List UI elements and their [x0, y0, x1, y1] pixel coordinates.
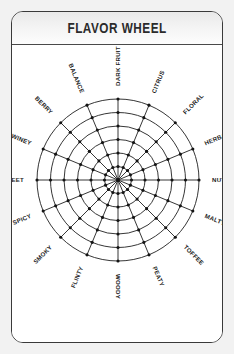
radar-grid-dot [147, 104, 150, 107]
radar-grid-dot [107, 188, 110, 191]
radar-grid-dot [142, 241, 145, 244]
radar-axis-label: MALTY [204, 212, 223, 227]
radar-grid-dot [166, 158, 169, 161]
radar-grid-dot [143, 178, 146, 181]
radar-grid-dot [91, 116, 94, 119]
radar-grid-dot [88, 207, 91, 210]
radar-grid-dot [62, 178, 65, 181]
radar-grid-dot [85, 104, 88, 107]
radar-grid-dot [147, 253, 150, 256]
radar-grid-dot [122, 166, 125, 169]
radar-grid-dot [136, 159, 139, 162]
radar-grid-dot [166, 199, 169, 202]
radar-grid-dot [132, 216, 135, 219]
radar-grid-dot [116, 151, 119, 154]
radar-grid-dot [141, 168, 144, 171]
radar-grid-dot [91, 241, 94, 244]
radar-grid-dot [111, 166, 114, 169]
radar-grid-dot [69, 226, 72, 229]
radar-grid-dot [127, 154, 130, 157]
radar-grid-dot [106, 203, 109, 206]
radar-grid-dot [116, 97, 119, 100]
radar-grid-dot [85, 253, 88, 256]
radar-axis-label: PEATY [152, 265, 167, 287]
radar-grid-dot [104, 173, 107, 176]
radar-grid-dot [170, 178, 173, 181]
radar-grid-dot [106, 154, 109, 157]
radar-grid-dot [179, 153, 182, 156]
radar-grid-dot [104, 184, 107, 187]
radar-grid-dot [184, 178, 187, 181]
radar-grid-dot [116, 219, 119, 222]
radar-grid-dot [126, 169, 129, 172]
radar-chart-svg: DARK FRUITCITRUSFLORALHERBALNUTTYMALTYTO… [12, 46, 223, 343]
radar-grid-dot [191, 147, 194, 150]
radar-grid-dot [59, 236, 62, 239]
radar-grid-dot [111, 191, 114, 194]
radar-axis-label: CITRUS [150, 69, 166, 94]
radar-axis-label: DARK FRUIT [114, 46, 121, 86]
radar-grid-dot [107, 169, 110, 172]
radar-grid-dot [116, 124, 119, 127]
radar-grid-dot [141, 189, 144, 192]
radar-grid-dot [145, 150, 148, 153]
card-header: FLAVOR WHEEL [12, 12, 222, 45]
flavor-wheel-card: FLAVOR WHEEL DARK FRUITCITRUSFLORALHERBA… [11, 11, 223, 343]
radar-grid-dot [59, 121, 62, 124]
radar-axis-label: SMOKY [32, 243, 54, 265]
radar-grid-dot [116, 138, 119, 141]
radar-grid-dot [101, 216, 104, 219]
radar-grid-dot [54, 153, 57, 156]
radar-axis-label: SPICY [12, 212, 32, 226]
radar-grid-dot [154, 163, 157, 166]
radar-grid-dot [155, 217, 158, 220]
radar-grid-dot [174, 121, 177, 124]
radar-grid-dot [130, 178, 133, 181]
radar-grid-dot [69, 131, 72, 134]
radar-grid-dot [136, 198, 139, 201]
radar-grid-dot [129, 173, 132, 176]
radar-axis-label: HERBAL [203, 130, 223, 147]
radar-grid-dot [79, 163, 82, 166]
radar-grid-dot [116, 111, 119, 114]
radar-grid-dot [78, 217, 81, 220]
radar-grid-dot [157, 178, 160, 181]
radar-grid-dot [154, 194, 157, 197]
radar-axis-label: TOFFEE [183, 243, 206, 266]
radar-grid-dot [88, 150, 91, 153]
radar-center-dot [116, 178, 120, 182]
radar-grid-dot [164, 131, 167, 134]
radar-axis-label: BERRY [34, 95, 55, 116]
flavor-wheel-chart: DARK FRUITCITRUSFLORALHERBALNUTTYMALTYTO… [12, 46, 223, 343]
radar-grid-dot [97, 159, 100, 162]
page-title: FLAVOR WHEEL [67, 20, 166, 36]
radar-grid-dot [49, 178, 52, 181]
radar-grid-dot [164, 226, 167, 229]
radar-grid-dot [92, 189, 95, 192]
radar-axis-label: FLORAL [181, 92, 205, 116]
radar-grid-dot [92, 168, 95, 171]
radar-grid-dot [129, 184, 132, 187]
radar-axis-label: WOODY [115, 274, 122, 299]
radar-axis-label: FLINTY [69, 265, 84, 289]
radar-axis-label: SWEET [12, 176, 24, 183]
radar-grid-dot [54, 204, 57, 207]
radar-grid-dot [42, 209, 45, 212]
radar-axis-label: NUTTY [212, 176, 223, 183]
radar-grid-dot [174, 236, 177, 239]
radar-grid-dot [89, 178, 92, 181]
radar-grid-dot [116, 232, 119, 235]
radar-grid-dot [137, 129, 140, 132]
radar-grid-dot [137, 228, 140, 231]
radar-axis-label: WINEY [12, 132, 33, 147]
radar-grid-dot [116, 165, 119, 168]
radar-grid-dot [127, 203, 130, 206]
radar-grid-dot [76, 178, 79, 181]
radar-grid-dot [103, 178, 106, 181]
radar-grid-dot [116, 205, 119, 208]
radar-grid-dot [35, 178, 38, 181]
radar-grid-dot [67, 199, 70, 202]
radar-grid-dot [126, 188, 129, 191]
radar-grid-dot [116, 246, 119, 249]
radar-grid-dot [97, 198, 100, 201]
